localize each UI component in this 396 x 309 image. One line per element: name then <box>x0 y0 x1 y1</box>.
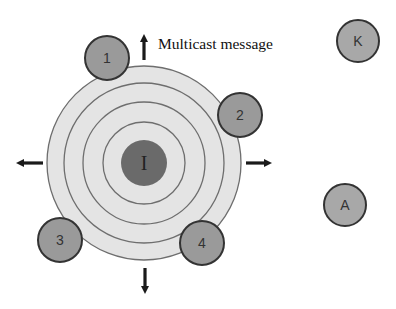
node-label: 3 <box>56 232 64 248</box>
node-k: K <box>337 20 379 62</box>
source-label: I <box>141 152 148 174</box>
node-label: 1 <box>103 50 111 66</box>
node-label: K <box>353 33 363 49</box>
node-1: 1 <box>85 36 129 80</box>
multicast-diagram: I 1234 KA Multicast message <box>0 0 396 309</box>
node-label: 2 <box>236 107 244 123</box>
node-3: 3 <box>38 218 82 262</box>
node-2: 2 <box>218 93 262 137</box>
node-label: 4 <box>198 235 206 251</box>
multicast-message-label: Multicast message <box>158 35 273 52</box>
node-a: A <box>324 184 366 226</box>
node-4: 4 <box>180 221 224 265</box>
outside-nodes: KA <box>324 20 379 226</box>
node-label: A <box>340 197 350 213</box>
source-node: I <box>121 140 167 186</box>
